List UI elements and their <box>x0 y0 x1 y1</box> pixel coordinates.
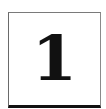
number-tile: 1 <box>8 12 101 108</box>
numeral-label: 1 <box>7 13 103 105</box>
